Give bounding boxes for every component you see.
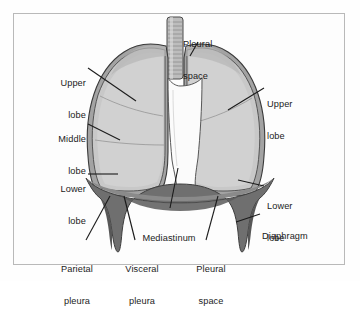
label-lower-lobe-left: Lower lobe bbox=[32, 163, 86, 248]
label-line: Lower bbox=[32, 184, 86, 195]
label-line: Upper bbox=[267, 99, 319, 110]
leader-upper-lobe-left bbox=[88, 68, 136, 101]
label-pleural-space-top: Pleural space bbox=[183, 18, 235, 103]
leader-diaphragm bbox=[236, 214, 260, 222]
label-line: space bbox=[183, 71, 235, 82]
label-line: pleura bbox=[48, 296, 106, 307]
label-visceral-pleura: Visceral pleura bbox=[113, 243, 171, 310]
label-line: Pleural bbox=[184, 264, 238, 275]
label-line: pleura bbox=[113, 296, 171, 307]
label-line: Parietal bbox=[48, 264, 106, 275]
leader-parietal-pleura bbox=[86, 196, 110, 240]
label-line: lobe bbox=[32, 216, 86, 227]
label-diaphragm: Diaphragm bbox=[262, 210, 334, 263]
label-line: lobe bbox=[267, 131, 319, 142]
label-upper-lobe-right: Upper lobe bbox=[267, 78, 319, 163]
label-line: Pleural bbox=[183, 39, 235, 50]
leader-middle-lobe bbox=[88, 124, 120, 140]
leader-mediastinum bbox=[170, 168, 178, 208]
label-line: Middle bbox=[30, 134, 86, 145]
label-pleural-space-bottom: Pleural space bbox=[184, 243, 238, 310]
label-line: Diaphragm bbox=[262, 231, 334, 242]
label-parietal-pleura: Parietal pleura bbox=[48, 243, 106, 310]
label-line: Upper bbox=[34, 78, 86, 89]
leader-lower-lobe-right bbox=[238, 180, 264, 186]
label-line: space bbox=[184, 296, 238, 307]
label-line: Visceral bbox=[113, 264, 171, 275]
